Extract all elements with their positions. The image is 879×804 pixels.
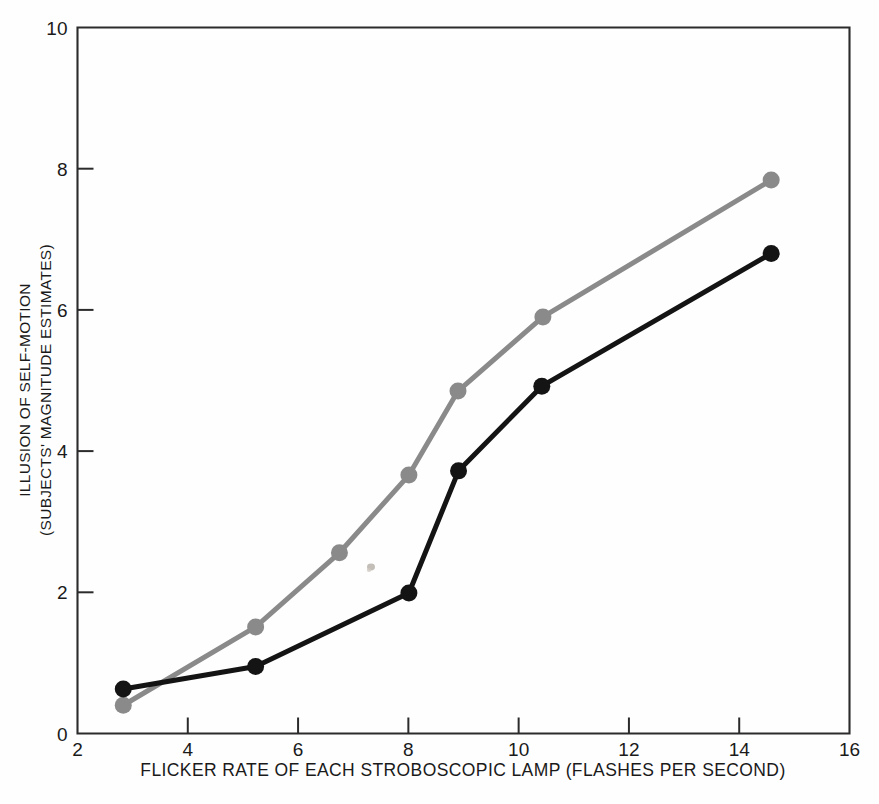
artifact-dot-2 [367, 568, 371, 572]
x-tick-label: 6 [293, 739, 304, 760]
x-tick-label: 2 [72, 739, 83, 760]
y-tick-label: 6 [57, 300, 68, 321]
line-chart: 246810121416 0246810 FLICKER RATE OF EAC… [0, 0, 879, 804]
data-point-marker [533, 378, 550, 395]
data-point-marker [763, 171, 780, 188]
y-axis-title-line2: (SUBJECTS' MAGNITUDE ESTIMATES) [37, 244, 54, 536]
series-line [123, 253, 771, 689]
y-axis-title-line1: ILLUSION OF SELF-MOTION [16, 283, 33, 497]
y-tick-label: 4 [57, 441, 68, 462]
data-point-marker [115, 697, 132, 714]
data-point-marker [400, 467, 417, 484]
y-tick-label: 2 [57, 582, 68, 603]
y-tick-label: 0 [57, 724, 68, 745]
series-black-series [115, 245, 780, 698]
data-point-marker [534, 308, 551, 325]
data-point-marker [400, 585, 417, 602]
x-tick-label: 12 [618, 739, 639, 760]
x-tick-label: 4 [182, 739, 193, 760]
data-point-marker [450, 462, 467, 479]
axis-frame-path [78, 28, 850, 734]
y-tick-label: 8 [57, 159, 68, 180]
x-axis-tick-labels: 246810121416 [72, 739, 860, 760]
data-point-marker [247, 658, 264, 675]
chart-figure: 246810121416 0246810 FLICKER RATE OF EAC… [0, 0, 879, 804]
series-gray-series [115, 171, 780, 713]
series-line [123, 180, 771, 705]
x-tick-label: 8 [403, 739, 414, 760]
data-point-marker [763, 245, 780, 262]
data-point-marker [247, 618, 264, 635]
x-tick-label: 10 [508, 739, 529, 760]
data-point-marker [115, 681, 132, 698]
data-point-marker [331, 544, 348, 561]
x-tick-label: 16 [839, 739, 860, 760]
x-axis-title: FLICKER RATE OF EACH STROBOSCOPIC LAMP (… [140, 760, 785, 780]
data-point-marker [449, 383, 466, 400]
plot-frame [78, 28, 850, 734]
y-axis-title-group: ILLUSION OF SELF-MOTION (SUBJECTS' MAGNI… [16, 244, 54, 536]
scan-artifact-speck [367, 564, 375, 572]
y-axis-ticks [78, 169, 94, 593]
data-series-layer [115, 171, 780, 713]
x-tick-label: 14 [729, 739, 751, 760]
y-tick-label: 10 [46, 18, 67, 39]
x-axis-ticks [188, 718, 739, 734]
